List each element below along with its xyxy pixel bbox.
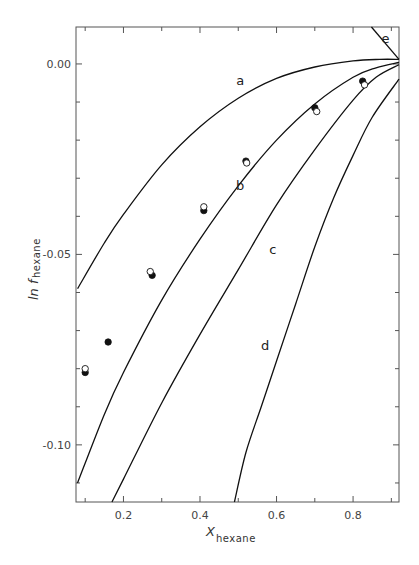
open-data-point — [314, 108, 320, 114]
y-tick-label: -0.05 — [43, 248, 71, 261]
open-data-point — [147, 268, 153, 274]
open-data-point — [243, 160, 249, 166]
model-curves — [78, 27, 399, 502]
y-axis-label: ln f — [26, 277, 41, 300]
open-data-point — [361, 82, 367, 88]
curve-b — [78, 62, 399, 483]
filled-data-point — [105, 339, 111, 345]
curve-a — [78, 59, 399, 288]
x-axis-label: X — [205, 524, 216, 539]
data-points — [82, 78, 368, 376]
curve-label-b: b — [236, 178, 244, 193]
x-tick-label: 0.8 — [344, 509, 362, 522]
open-data-point — [201, 204, 207, 210]
x-tick-label: 0.4 — [191, 509, 209, 522]
curve-label-c: c — [269, 242, 276, 257]
curve-labels: abcde — [236, 31, 390, 353]
curve-label-d: d — [261, 338, 269, 353]
y-tick-label: -0.10 — [43, 439, 71, 452]
y-axis-title: ln f hexane — [26, 238, 42, 300]
curve-d — [234, 79, 399, 502]
x-axis-subscript: hexane — [216, 533, 256, 544]
y-axis-subscript: hexane — [31, 238, 42, 278]
chart: 0.20.40.60.80.00-0.05-0.10 abcde X hexan… — [0, 0, 419, 565]
x-tick-label: 0.6 — [268, 509, 286, 522]
x-axis-title: X hexane — [205, 524, 256, 544]
curve-label-a: a — [236, 73, 244, 88]
curve-c — [112, 65, 399, 502]
open-data-point — [82, 365, 88, 371]
axis-ticks: 0.20.40.60.80.00-0.05-0.10 — [43, 27, 399, 522]
y-tick-label: 0.00 — [47, 58, 72, 71]
curve-label-e: e — [382, 31, 390, 46]
x-tick-label: 0.2 — [115, 509, 133, 522]
